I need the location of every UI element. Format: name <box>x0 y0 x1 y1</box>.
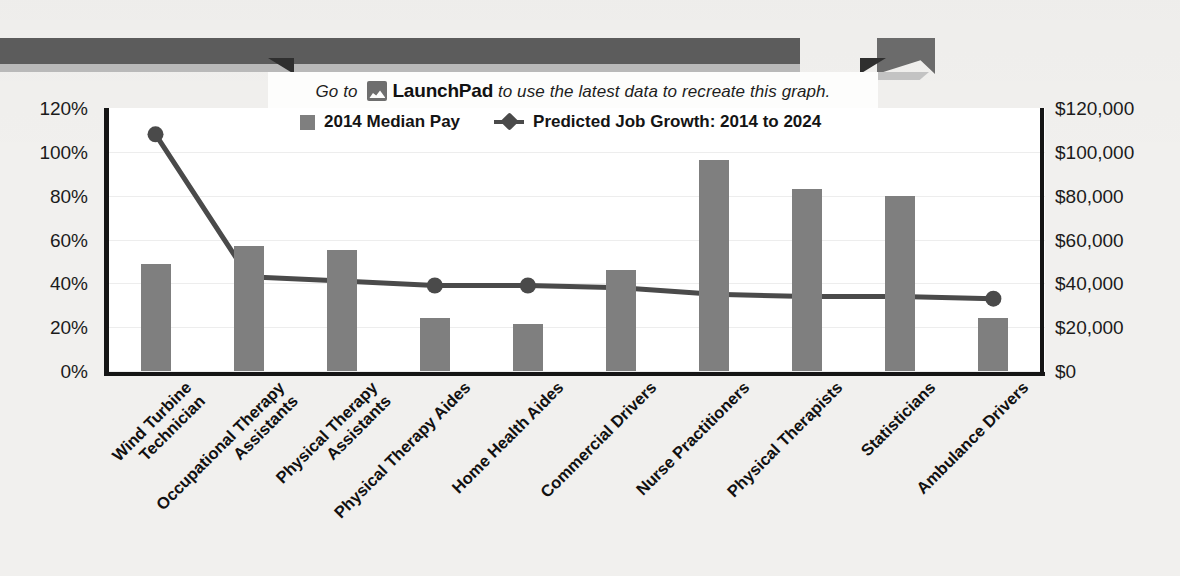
bar-wind-turbine-technician <box>141 264 171 371</box>
bar-physical-therapy-assistants <box>327 250 357 371</box>
y-tick-left-4: 40% <box>50 274 88 293</box>
legend-item-job-growth: Predicted Job Growth: 2014 to 2024 <box>494 112 821 132</box>
bar-occupational-therapy-assistants <box>234 246 264 371</box>
y-tick-left-0: 120% <box>39 99 88 118</box>
y-tick-right-3: $60,000 <box>1055 231 1124 250</box>
y-tick-left-1: 100% <box>39 143 88 162</box>
bar-statisticians <box>885 196 915 371</box>
legend-label-job-growth: Predicted Job Growth: 2014 to 2024 <box>533 112 821 132</box>
ribbon-tail-shadow <box>0 64 800 72</box>
bar-ambulance-drivers <box>978 318 1008 371</box>
data-point-wind-turbine-technician: Wind Turbine Technician: 108% <box>148 126 164 142</box>
launchpad-banner: Go to LaunchPad to use the latest data t… <box>0 38 935 84</box>
chart-legend: 2014 Median Pay Predicted Job Growth: 20… <box>300 112 821 132</box>
legend-label-median-pay: 2014 Median Pay <box>324 112 460 132</box>
bar-physical-therapy-aides <box>420 318 450 371</box>
gridline <box>109 371 1045 372</box>
y-tick-right-2: $80,000 <box>1055 187 1124 206</box>
banner-prefix: Go to <box>316 82 358 101</box>
data-point-home-health-aides: Home Health Aides: 39% <box>520 278 536 294</box>
banner-label: Go to LaunchPad to use the latest data t… <box>268 72 878 110</box>
x-label-statisticians: Statisticians <box>858 378 940 460</box>
x-axis-categories: Wind TurbineTechnicianOccupational Thera… <box>0 376 1180 576</box>
job-growth-polyline <box>156 134 994 298</box>
plot-right-border <box>1040 108 1044 376</box>
y-tick-right-1: $100,000 <box>1055 143 1134 162</box>
banner-suffix: to use the latest data to recreate this … <box>498 82 831 101</box>
y-tick-right-0: $120,000 <box>1055 99 1134 118</box>
y-tick-right-5: $20,000 <box>1055 318 1124 337</box>
bar-physical-therapists <box>792 189 822 371</box>
data-point-ambulance-drivers: Ambulance Drivers: 33% <box>985 291 1001 307</box>
data-point-physical-therapy-aides: Physical Therapy Aides: 39% <box>427 278 443 294</box>
ribbon-right-shadow <box>877 72 929 80</box>
y-tick-left-2: 80% <box>50 187 88 206</box>
launchpad-brand: LaunchPad <box>392 80 493 101</box>
legend-marker-line <box>494 120 524 124</box>
plot-content: Wind Turbine Technician: 108%Occupationa… <box>109 108 1040 371</box>
launchpad-icon <box>367 81 387 101</box>
chart-page: Go to LaunchPad to use the latest data t… <box>0 0 1180 576</box>
ribbon-right-end <box>877 38 935 74</box>
legend-item-median-pay: 2014 Median Pay <box>300 112 460 132</box>
bar-commercial-drivers <box>606 270 636 371</box>
bar-home-health-aides <box>513 324 543 371</box>
ribbon-tail <box>0 38 800 64</box>
y-tick-left-5: 20% <box>50 318 88 337</box>
y-tick-left-3: 60% <box>50 231 88 250</box>
legend-swatch-bar <box>300 115 315 130</box>
y-tick-right-4: $40,000 <box>1055 274 1124 293</box>
bar-nurse-practitioners <box>699 160 729 371</box>
